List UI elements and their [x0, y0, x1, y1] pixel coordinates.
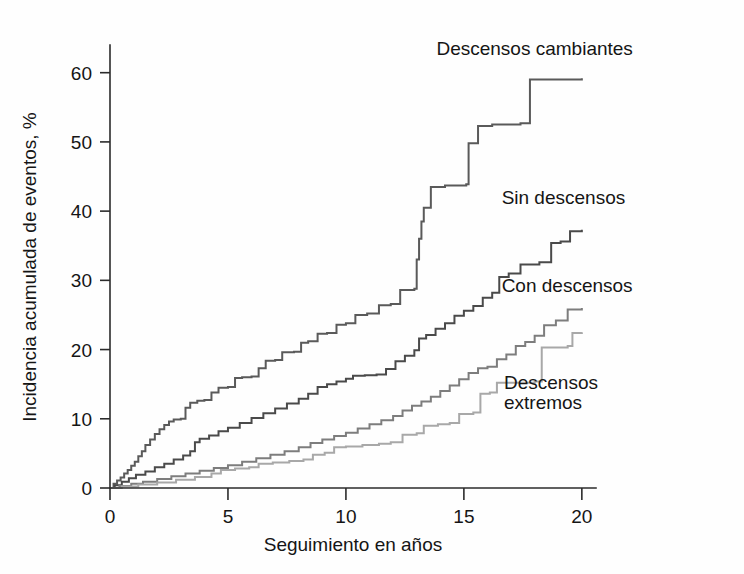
x-tick-label: 5	[223, 506, 234, 527]
y-tick-label: 0	[81, 478, 92, 499]
series-label-layer: Descensos cambiantesSin descensosCon des…	[436, 38, 632, 413]
x-tick-label: 15	[453, 506, 474, 527]
series-label-0: Descensos cambiantes	[436, 38, 632, 59]
chart-container: 0102030405060 05101520 Descensos cambian…	[0, 0, 744, 574]
x-tick-label: 20	[571, 506, 592, 527]
axes-layer	[110, 45, 596, 488]
y-tick-label: 20	[71, 340, 92, 361]
x-tick-label: 10	[335, 506, 356, 527]
y-tick-label: 50	[71, 132, 92, 153]
cumulative-incidence-chart: 0102030405060 05101520 Descensos cambian…	[0, 0, 744, 574]
series-curve-1	[110, 230, 582, 488]
y-axis-title: Incidencia acumulada de eventos, %	[19, 112, 40, 422]
y-tick-layer: 0102030405060	[71, 63, 110, 499]
y-tick-label: 60	[71, 63, 92, 84]
series-label-2: Con descensos	[502, 275, 633, 296]
y-tick-label: 30	[71, 270, 92, 291]
x-tick-label: 0	[105, 506, 116, 527]
x-axis-title: Seguimiento en años	[264, 534, 443, 555]
y-tick-label: 10	[71, 409, 92, 430]
series-label-3-line1: Descensos	[504, 372, 598, 393]
series-label-3-line2: extremos	[504, 392, 582, 413]
series-label-1: Sin descensos	[502, 187, 626, 208]
y-tick-label: 40	[71, 201, 92, 222]
x-tick-layer: 05101520	[105, 488, 593, 527]
